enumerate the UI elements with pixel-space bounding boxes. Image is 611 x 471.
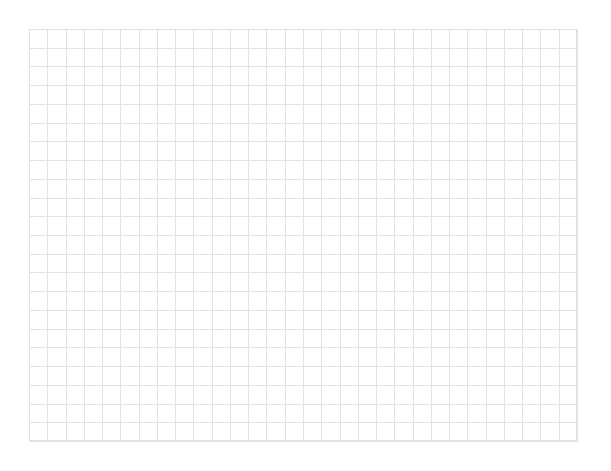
grid-lines [29, 29, 578, 442]
grid-paper [29, 29, 577, 441]
